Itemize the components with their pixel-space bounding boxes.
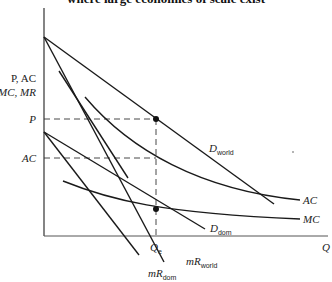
- d-world-label: Dworld: [208, 142, 234, 156]
- mc-curve: [63, 181, 300, 219]
- mr-world-label: mRworld: [186, 255, 218, 269]
- stray-dot: [292, 151, 294, 153]
- world-price-point: [153, 116, 159, 122]
- mr-dom-curve: [44, 132, 139, 255]
- ac-curve: [85, 97, 300, 200]
- ac-level-label: AC: [21, 152, 37, 164]
- p-level-label: P: [28, 113, 36, 125]
- qe-label: Qe: [150, 241, 162, 255]
- y-axis-label-line2: MC, MR: [0, 86, 36, 98]
- d-dom-label: Ddom: [209, 222, 232, 236]
- mc-curve-label: MC: [302, 213, 320, 225]
- d-world-curve: [44, 37, 274, 204]
- equilibrium-point: [153, 206, 159, 212]
- x-axis-label: Q: [322, 241, 330, 253]
- d-dom-curve: [44, 132, 205, 229]
- ac-curve-label: AC: [302, 194, 318, 206]
- y-axis-label-line1: P, AC: [11, 72, 36, 84]
- economies-of-scale-diagram: P, AC MC, MR P AC Q Qe Dworld AC MC Ddom…: [0, 0, 332, 282]
- mr-dom-label: mRdom: [148, 267, 176, 281]
